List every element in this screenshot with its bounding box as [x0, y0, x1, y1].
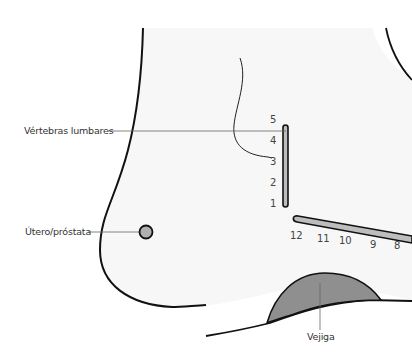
lumbar-spine-bar [283, 125, 288, 207]
diagram-canvas [0, 0, 412, 364]
rib-number: 8 [394, 240, 400, 251]
rib-number: 11 [317, 233, 330, 244]
lumbar-vertebrae-label: Vértebras lumbares [24, 125, 113, 136]
rib-number: 12 [290, 230, 303, 241]
rib-number: 10 [339, 235, 352, 246]
vertebra-number: 5 [270, 114, 276, 125]
uterus-prostate-circle [140, 226, 153, 239]
uterus-prostate-label: Útero/próstata [25, 226, 91, 237]
abdominal-anatomy-diagram: Vértebras lumbares Útero/próstata Vejiga… [0, 0, 412, 364]
vertebra-number: 2 [270, 177, 276, 188]
rib-number: 9 [370, 239, 376, 250]
bladder-label: Vejiga [307, 331, 335, 342]
vertebra-number: 1 [270, 198, 276, 209]
vertebra-number: 3 [270, 156, 276, 167]
vertebra-number: 4 [270, 135, 276, 146]
body-silhouette [100, 28, 412, 307]
